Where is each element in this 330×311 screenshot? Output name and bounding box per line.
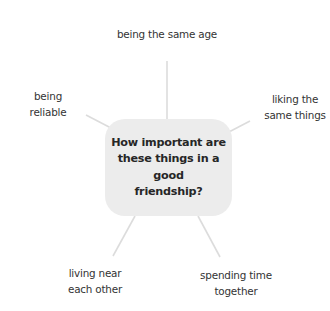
branch-label-same-age: being the same age: [97, 26, 237, 42]
branch-label-line: liking the: [252, 91, 330, 107]
branch-label-line: reliable: [8, 104, 88, 120]
branch-label-line: each other: [50, 281, 140, 297]
branch-label-living-near: living near each other: [50, 265, 140, 297]
branch-label-line: together: [186, 283, 286, 299]
central-question-box: How important are these things in a good…: [105, 119, 232, 216]
central-question-line: How important are: [109, 135, 228, 152]
branch-label-reliable: being reliable: [8, 88, 88, 120]
mind-map-diagram: How important are these things in a good…: [0, 0, 330, 311]
central-question-line: these things in a good: [109, 151, 228, 184]
connector-bottom-left: [113, 216, 135, 256]
branch-label-same-things: liking the same things: [252, 91, 330, 123]
central-question: How important are these things in a good…: [109, 135, 228, 201]
connector-bottom-right: [198, 216, 220, 257]
branch-label-spending-time: spending time together: [186, 267, 286, 299]
branch-label-line: being: [8, 88, 88, 104]
branch-label-line: same things: [252, 107, 330, 123]
central-question-line: friendship?: [109, 184, 228, 201]
branch-label-line: living near: [50, 265, 140, 281]
connector-left: [86, 115, 111, 128]
branch-label-line: being the same age: [97, 26, 237, 42]
branch-label-line: spending time: [186, 267, 286, 283]
